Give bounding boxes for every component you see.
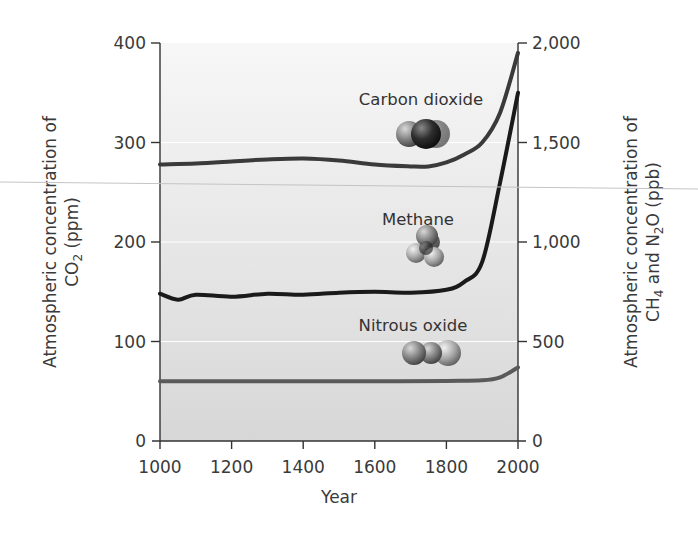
y-right-tick: 500 <box>532 332 564 352</box>
y-right-axis-title: Atmospheric concentration of CH4 and N2O… <box>621 115 666 368</box>
x-tick-labels: 1000 1200 1400 1600 1800 2000 <box>138 457 539 477</box>
y-left-axis-title: Atmospheric concentration of CO2 (ppm) <box>40 115 85 368</box>
label-nitrous-oxide: Nitrous oxide <box>359 316 468 335</box>
svg-text:Atmospheric concentration of: Atmospheric concentration of <box>621 115 641 368</box>
x-tick: 1600 <box>353 457 396 477</box>
svg-text:Atmospheric concentration of: Atmospheric concentration of <box>40 115 60 368</box>
x-tick: 1000 <box>138 457 181 477</box>
y-left-tick: 200 <box>114 232 146 252</box>
label-methane: Methane <box>382 210 454 229</box>
x-tick: 2000 <box>496 457 539 477</box>
chart: 400 300 200 100 0 2,000 1,500 1,000 500 … <box>0 0 698 537</box>
y-left-tick: 0 <box>135 431 146 451</box>
x-axis-title: Year <box>320 487 357 507</box>
x-tick: 1400 <box>282 457 325 477</box>
x-tick: 1800 <box>425 457 468 477</box>
svg-text:CH4 and N2O (ppb): CH4 and N2O (ppb) <box>643 162 666 322</box>
y-right-tick: 1,500 <box>532 133 581 153</box>
left-tick-labels: 400 300 200 100 0 <box>114 33 146 451</box>
label-carbon-dioxide: Carbon dioxide <box>359 90 483 109</box>
n2o-molecule-icon <box>402 340 461 366</box>
svg-text:CO2 (ppm): CO2 (ppm) <box>62 197 85 287</box>
right-tick-labels: 2,000 1,500 1,000 500 0 <box>532 33 581 451</box>
x-tick: 1200 <box>210 457 253 477</box>
y-right-tick: 2,000 <box>532 33 581 53</box>
y-right-tick: 0 <box>532 431 543 451</box>
y-left-tick: 300 <box>114 133 146 153</box>
y-right-tick: 1,000 <box>532 232 581 252</box>
co2-molecule-icon <box>396 119 450 149</box>
y-left-tick: 100 <box>114 332 146 352</box>
y-left-tick: 400 <box>114 33 146 53</box>
